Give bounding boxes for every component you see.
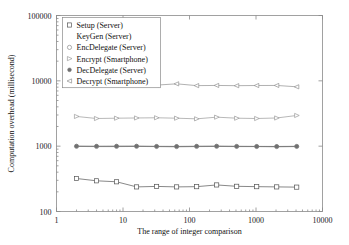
data-point bbox=[74, 176, 78, 180]
data-point bbox=[275, 185, 279, 189]
x-tick-label: 10000 bbox=[313, 216, 333, 225]
series-4 bbox=[74, 113, 299, 121]
data-point bbox=[155, 144, 159, 148]
x-axis-title: The range of integer comparison bbox=[137, 227, 241, 236]
y-axis-title: Computation overhead (millisecond) bbox=[7, 54, 16, 172]
legend-marker bbox=[67, 23, 71, 27]
data-point bbox=[275, 145, 279, 149]
data-point bbox=[154, 184, 158, 188]
data-point bbox=[215, 144, 219, 148]
data-point bbox=[295, 144, 299, 148]
data-point bbox=[235, 144, 239, 148]
data-point bbox=[195, 117, 200, 121]
x-tick-label: 1000 bbox=[248, 216, 264, 225]
data-point bbox=[114, 180, 118, 184]
data-point bbox=[295, 113, 300, 117]
legend-label: KeyGen (Server) bbox=[77, 32, 132, 41]
data-point bbox=[175, 185, 179, 189]
chart-figure: 110100100010000The range of integer comp… bbox=[0, 0, 349, 245]
data-point bbox=[94, 116, 99, 120]
data-point bbox=[295, 185, 299, 189]
data-point bbox=[75, 144, 79, 148]
legend-label: Encrypt (Smartphone) bbox=[77, 55, 149, 64]
data-point bbox=[234, 84, 239, 88]
data-point bbox=[95, 144, 99, 148]
computation-overhead-line-chart: 110100100010000The range of integer comp… bbox=[0, 0, 349, 245]
y-tick-label: 1000 bbox=[36, 142, 52, 151]
legend-label: Setup (Server) bbox=[77, 21, 124, 30]
x-tick-label: 1 bbox=[55, 216, 59, 225]
data-point bbox=[294, 85, 299, 89]
data-point bbox=[74, 114, 79, 118]
data-point bbox=[215, 183, 219, 187]
data-point bbox=[115, 144, 119, 148]
data-point bbox=[154, 116, 159, 120]
data-point bbox=[255, 144, 259, 148]
data-point bbox=[175, 116, 180, 120]
data-point bbox=[135, 144, 139, 148]
legend-marker bbox=[68, 68, 72, 72]
data-point bbox=[254, 83, 259, 87]
data-point bbox=[255, 185, 259, 189]
data-point bbox=[174, 82, 179, 86]
x-tick-label: 100 bbox=[184, 216, 196, 225]
data-point bbox=[275, 116, 280, 120]
data-point bbox=[215, 115, 220, 119]
data-point bbox=[255, 116, 260, 120]
data-point bbox=[195, 144, 199, 148]
data-point bbox=[274, 83, 279, 87]
data-point bbox=[134, 185, 138, 189]
data-point bbox=[195, 185, 199, 189]
series-line bbox=[77, 179, 297, 188]
y-tick-label: 10000 bbox=[32, 77, 52, 86]
data-point bbox=[94, 179, 98, 183]
data-point bbox=[134, 116, 139, 120]
y-tick-label: 100 bbox=[40, 208, 52, 217]
chart-legend: Setup (Server)KeyGen (Server)EncDelegate… bbox=[63, 18, 161, 88]
data-point bbox=[194, 84, 199, 88]
y-tick-label: 100000 bbox=[28, 12, 52, 21]
series-line bbox=[77, 115, 297, 118]
series-1 bbox=[74, 176, 298, 189]
legend-label: Decrypt (Smartphone) bbox=[77, 77, 149, 86]
data-point bbox=[235, 184, 239, 188]
legend-marker bbox=[67, 45, 71, 49]
x-tick-label: 10 bbox=[119, 216, 127, 225]
legend-label: DecDelegate (Server) bbox=[77, 66, 147, 75]
legend-label: EncDelegate (Server) bbox=[77, 43, 146, 52]
data-point bbox=[214, 83, 219, 87]
data-point bbox=[235, 116, 240, 120]
data-point bbox=[114, 116, 119, 120]
series-5 bbox=[75, 144, 299, 148]
data-point bbox=[175, 144, 179, 148]
